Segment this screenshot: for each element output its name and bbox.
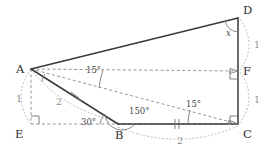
angle-label-at-C-15: 15° (186, 99, 201, 109)
length-label-group: 1 2 2 1 1 (16, 39, 260, 146)
angle-label-group: x 15° 15° 30° 150° (81, 28, 231, 127)
length-label-F-C: 1 (254, 94, 260, 105)
vertex-label-F: F (243, 64, 251, 78)
length-label-B-C: 2 (177, 135, 183, 146)
vertex-label-C: C (243, 127, 252, 141)
angle-label-at-B-150: 150° (129, 106, 149, 116)
length-label-D-F: 1 (254, 39, 260, 50)
angle-label-at-B-30: 30° (81, 117, 96, 127)
angle-arc-at-B-30 (100, 115, 104, 124)
right-angle-at-E (31, 116, 39, 124)
angle-arc-at-C-15 (188, 110, 190, 124)
measure-arc-D-F (240, 19, 249, 70)
vertex-label-A: A (15, 62, 25, 76)
vertex-label-B: B (115, 128, 123, 142)
geometry-diagram-canvas: A B C D E F x 15° 15° 30° 150° 1 2 2 1 1 (0, 0, 269, 151)
measure-arc-A-E (21, 69, 31, 124)
length-label-A-B: 2 (56, 96, 62, 107)
edge-A-D (31, 18, 238, 69)
tick-on-measure-arc-A-B (75, 96, 82, 102)
right-angle-group (31, 71, 238, 124)
geometry-figure: A B C D E F x 15° 15° 30° 150° 1 2 2 1 1 (0, 0, 269, 151)
measure-arc-F-C (240, 72, 249, 123)
angle-label-at-D: x (226, 28, 231, 38)
measurement-arc-group (21, 19, 249, 139)
right-angle-at-C (230, 116, 238, 124)
vertex-label-D: D (243, 3, 252, 17)
edge-A-F (31, 69, 238, 71)
angle-label-at-A-15: 15° (86, 65, 101, 75)
length-label-A-E: 1 (16, 93, 22, 104)
vertex-label-E: E (15, 127, 23, 141)
